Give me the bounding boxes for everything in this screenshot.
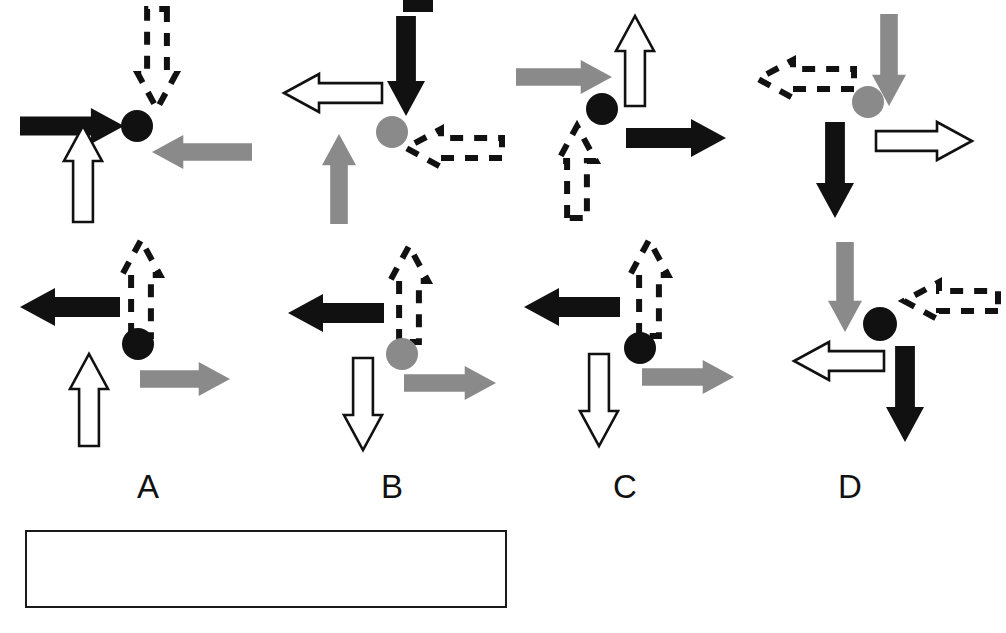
arrow-gray-right: [404, 366, 496, 400]
black-circle: [624, 332, 656, 364]
gray-circle: [376, 116, 408, 148]
panel-A-bottom: [12, 236, 242, 451]
arrow-gray-up: [322, 134, 356, 224]
arrow-black-left: [524, 288, 620, 326]
arrow-black-left: [288, 294, 384, 332]
arrow-black-left: [20, 288, 120, 326]
arrow-dashed-up: [122, 240, 160, 336]
panel-canvas-B-top: [272, 4, 502, 219]
caption-box: [25, 530, 507, 608]
arrow-dashed-left: [406, 129, 502, 167]
black-circle: [586, 93, 618, 125]
panel-C-top: [516, 4, 746, 219]
arrow-gray-left: [152, 135, 252, 169]
arrow-white-up: [616, 16, 654, 106]
column-label-c: C: [595, 470, 655, 503]
cropped-text-fragment-icon: [403, 0, 433, 12]
arrow-dashed-left: [904, 282, 998, 320]
arrow-gray-right: [516, 60, 612, 94]
arrow-white-down: [344, 358, 382, 450]
panel-D-top: [740, 4, 990, 229]
arrow-dashed-up: [558, 126, 596, 218]
column-label-d: D: [820, 470, 880, 503]
arrow-black-right: [626, 119, 726, 157]
gray-circle: [386, 338, 418, 370]
panel-canvas-C-bottom: [502, 236, 732, 451]
black-circle: [121, 110, 153, 142]
black-circle: [863, 307, 897, 341]
arrow-dashed-down: [138, 9, 176, 109]
arrow-white-left: [284, 74, 382, 112]
arrow-white-up: [70, 354, 108, 446]
arrow-black-right: [20, 108, 124, 144]
arrow-black-down: [387, 16, 425, 116]
column-label-b: B: [362, 470, 422, 503]
panel-B-bottom: [272, 236, 502, 451]
panel-B-top: [272, 4, 502, 219]
panel-D-bottom: [740, 236, 990, 461]
arrow-black-down: [816, 122, 854, 218]
panel-canvas-D-bottom: [740, 236, 990, 461]
arrow-gray-right: [140, 362, 230, 396]
gray-circle: [852, 86, 884, 118]
caption-text: [27, 532, 505, 544]
arrow-white-down: [580, 354, 618, 446]
arrow-gray-right: [642, 360, 734, 394]
arrow-dashed-up: [390, 246, 428, 342]
panel-canvas-C-top: [516, 4, 746, 219]
arrow-black-down: [886, 346, 924, 442]
arrow-gray-down: [828, 242, 862, 332]
panel-canvas-D-top: [740, 4, 990, 229]
arrow-dashed-left: [758, 60, 854, 98]
panel-canvas-A-top: [12, 4, 222, 219]
panel-C-bottom: [502, 236, 732, 451]
panel-A-top: [12, 4, 222, 219]
panel-canvas-B-bottom: [272, 236, 502, 451]
arrow-white-left: [794, 342, 884, 380]
column-label-a: A: [118, 470, 178, 503]
arrow-white-right: [876, 122, 972, 160]
black-circle: [122, 328, 154, 360]
arrow-dashed-up: [630, 240, 668, 336]
panel-canvas-A-bottom: [12, 236, 242, 451]
